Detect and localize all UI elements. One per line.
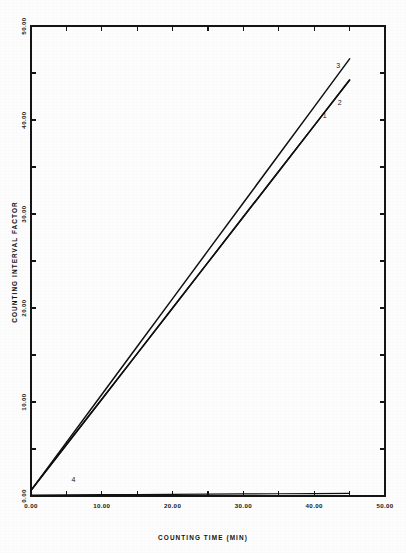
x-axis-ticks [31, 26, 385, 496]
chart-canvas: 0.0010.0020.0030.0040.0050.00 0.0010.002… [0, 0, 406, 553]
x-tick-label: 30.00 [235, 502, 252, 509]
x-axis-tick-labels: 0.0010.0020.0030.0040.0050.00 [24, 502, 394, 509]
axis-frame [31, 26, 385, 496]
y-tick-label: 40.00 [20, 111, 27, 128]
y-tick-label: 0.00 [20, 489, 27, 503]
y-tick-label: 30.00 [20, 205, 27, 222]
x-tick-label: 50.00 [376, 502, 393, 509]
y-axis-tick-labels: 0.0010.0020.0030.0040.0050.00 [20, 17, 27, 503]
y-axis-title: COUNTING INTERVAL FACTOR [11, 201, 18, 322]
x-tick-label: 10.00 [93, 502, 110, 509]
x-tick-label: 40.00 [306, 502, 323, 509]
y-tick-label: 50.00 [20, 17, 27, 34]
y-axis-ticks [31, 26, 385, 496]
series-line-4 [31, 493, 350, 495]
x-axis-title: COUNTING TIME (MIN) [158, 534, 248, 542]
chart-figure: 0.0010.0020.0030.0040.0050.00 0.0010.002… [0, 0, 406, 553]
series-label-4: 4 [72, 476, 76, 483]
series-label-1: 1 [323, 112, 327, 119]
y-tick-label: 10.00 [20, 393, 27, 410]
x-tick-label: 20.00 [164, 502, 181, 509]
series-line-3 [31, 59, 350, 490]
series-label-2: 2 [338, 99, 342, 106]
plot-frame [31, 26, 385, 496]
y-tick-label: 20.00 [20, 299, 27, 316]
series-line-2 [31, 80, 350, 490]
series-label-3: 3 [336, 62, 340, 69]
series-lines [31, 59, 350, 495]
